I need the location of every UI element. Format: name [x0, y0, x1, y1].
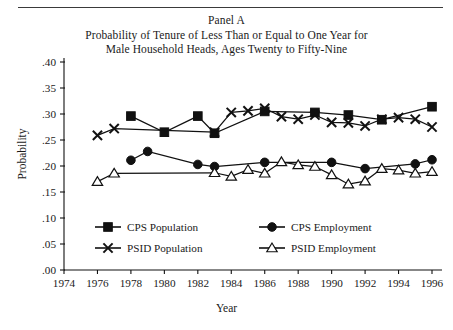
data-point: [427, 167, 437, 176]
data-point: [344, 111, 353, 120]
legend-marker-filled-square: [104, 223, 113, 232]
top-horizontal-rule: [18, 7, 443, 8]
y-tick-label: .35: [42, 82, 56, 94]
legend-label: CPS Employment: [291, 221, 372, 233]
y-axis-label: Probability: [16, 109, 28, 199]
x-tick-label: 1982: [187, 277, 209, 289]
data-point: [92, 177, 102, 186]
title-line-2: Male Household Heads, Ages Twenty to Fif…: [0, 42, 453, 57]
x-tick-label: 1992: [354, 277, 376, 289]
y-tick-label: .10: [42, 212, 56, 224]
series-line: [131, 107, 432, 134]
legend-item-cps-population[interactable]: CPS Population: [95, 221, 199, 233]
series-psid-population: [93, 104, 437, 140]
data-point: [260, 158, 269, 167]
data-point: [427, 122, 436, 131]
y-tick-label: .20: [42, 160, 56, 172]
x-tick-label: 1990: [320, 277, 343, 289]
data-point: [276, 157, 286, 166]
x-tick-label: 1984: [220, 277, 243, 289]
data-point: [326, 170, 336, 179]
data-point: [428, 102, 437, 111]
legend-label: PSID Employment: [291, 242, 377, 254]
data-point: [327, 158, 336, 167]
figure-title-block: Panel A Probability of Tenure of Less Th…: [0, 13, 453, 57]
x-tick-label: 1974: [53, 277, 76, 289]
legend-item-psid-employment[interactable]: PSID Employment: [259, 242, 377, 254]
data-point: [411, 160, 420, 169]
y-tick-label: .00: [42, 264, 56, 276]
y-tick-label: .15: [42, 186, 56, 198]
y-tick-label: .05: [42, 238, 56, 250]
data-point: [243, 165, 253, 174]
data-point: [160, 128, 169, 137]
panel-label: Panel A: [0, 13, 453, 28]
x-tick-label: 1986: [254, 277, 277, 289]
data-point: [428, 155, 437, 164]
x-tick-label: 1978: [120, 277, 143, 289]
data-point: [127, 156, 136, 165]
data-point: [360, 176, 370, 185]
x-tick-label: 1996: [421, 277, 444, 289]
x-axis-label: Year: [0, 302, 453, 314]
legend-item-cps-employment[interactable]: CPS Employment: [259, 221, 372, 233]
data-point: [194, 160, 203, 169]
title-line-1: Probability of Tenure of Less Than or Eq…: [0, 28, 453, 43]
x-tick-label: 1988: [287, 277, 310, 289]
legend-item-psid-population[interactable]: PSID Population: [95, 242, 203, 254]
legend-label: CPS Population: [127, 221, 199, 233]
data-point: [93, 131, 102, 140]
legend-label: PSID Population: [127, 242, 203, 254]
data-point: [143, 147, 152, 156]
x-tick-label: 1976: [86, 277, 109, 289]
y-tick-label: .40: [42, 56, 56, 68]
figure-panel-a: Panel A Probability of Tenure of Less Th…: [0, 0, 453, 330]
data-point: [194, 112, 203, 121]
data-point: [127, 112, 136, 121]
legend-marker-filled-circle: [268, 223, 277, 232]
y-tick-label: .25: [42, 134, 56, 146]
data-point: [361, 164, 370, 173]
y-tick-label: .30: [42, 108, 56, 120]
series-cps-population: [127, 102, 437, 137]
x-tick-label: 1980: [153, 277, 176, 289]
x-tick-label: 1994: [387, 277, 410, 289]
